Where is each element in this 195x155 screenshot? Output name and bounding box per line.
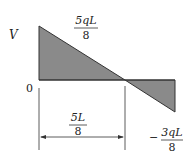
negative-shear-region	[125, 80, 175, 112]
max-negative-denominator: 8	[169, 141, 176, 154]
max-negative-numerator: 3qL	[161, 126, 182, 139]
max-positive-denominator: 8	[83, 29, 90, 42]
shear-diagram: V 0 5qL 8 5L 8 − 3qL 8	[0, 0, 195, 155]
origin-label: 0	[26, 82, 33, 95]
crossing-dimension-denominator: 8	[75, 125, 82, 138]
max-negative-sign: −	[149, 131, 158, 144]
max-positive-numerator: 5qL	[75, 14, 96, 27]
arrowhead-right-icon	[118, 135, 124, 139]
axis-label-v: V	[9, 28, 19, 42]
crossing-dimension-numerator: 5L	[71, 111, 85, 124]
arrowhead-left-icon	[40, 135, 46, 139]
